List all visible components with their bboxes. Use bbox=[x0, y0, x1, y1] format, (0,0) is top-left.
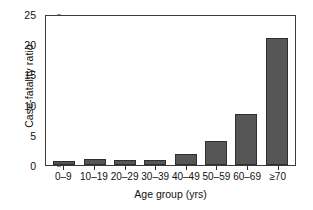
x-axis-title: Age group (yrs) bbox=[45, 188, 296, 200]
plot-area bbox=[45, 15, 296, 166]
chart-figure: Case-fatality ratio 0510152025 0–910–192… bbox=[0, 0, 313, 210]
x-tick-mark bbox=[155, 166, 156, 170]
x-axis-tick-labels: 0–910–1920–2930–3940–4950–5960–69≥70 bbox=[45, 171, 296, 183]
bar-slot bbox=[110, 16, 140, 165]
x-tick-mark bbox=[216, 166, 217, 170]
bar-slot bbox=[231, 16, 261, 165]
y-axis-tick-labels: 0510152025 bbox=[16, 8, 36, 174]
bar-slot bbox=[262, 16, 292, 165]
x-tick-label: 40–49 bbox=[171, 171, 202, 183]
y-tick-label: 20 bbox=[16, 40, 36, 51]
y-tick-label: 0 bbox=[16, 161, 36, 172]
x-tick-mark bbox=[94, 166, 95, 170]
y-tick-label: 15 bbox=[16, 70, 36, 81]
x-tick-mark bbox=[186, 166, 187, 170]
bar-series bbox=[46, 16, 295, 165]
bar-slot bbox=[171, 16, 201, 165]
y-tick-label: 25 bbox=[16, 10, 36, 21]
bar[interactable] bbox=[175, 154, 197, 165]
x-tick-mark bbox=[278, 166, 279, 170]
y-tick-label: 10 bbox=[16, 100, 36, 111]
x-tick-label: 60–69 bbox=[232, 171, 263, 183]
x-tick-mark bbox=[247, 166, 248, 170]
bar-slot bbox=[49, 16, 79, 165]
x-tick-label: 0–9 bbox=[48, 171, 79, 183]
x-tick-label: 30–39 bbox=[140, 171, 171, 183]
bar-slot bbox=[79, 16, 109, 165]
bar[interactable] bbox=[114, 160, 136, 165]
bar[interactable] bbox=[235, 114, 257, 165]
bar[interactable] bbox=[84, 159, 106, 165]
x-tick-label: 10–19 bbox=[79, 171, 110, 183]
x-tick-label: ≥70 bbox=[262, 171, 293, 183]
bar[interactable] bbox=[53, 161, 75, 165]
bar-slot bbox=[140, 16, 170, 165]
x-tick-label: 50–59 bbox=[201, 171, 232, 183]
bar[interactable] bbox=[266, 38, 288, 165]
bar-slot bbox=[201, 16, 231, 165]
x-tick-label: 20–29 bbox=[109, 171, 140, 183]
x-tick-mark bbox=[63, 166, 64, 170]
bar[interactable] bbox=[205, 141, 227, 165]
y-tick-label: 5 bbox=[16, 131, 36, 142]
bar[interactable] bbox=[144, 160, 166, 165]
x-tick-mark bbox=[125, 166, 126, 170]
